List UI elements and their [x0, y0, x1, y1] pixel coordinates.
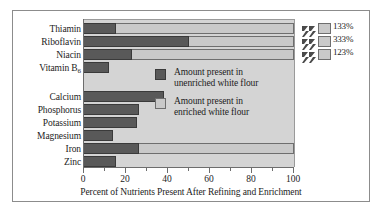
legend-label-line2: enriched white flour	[174, 107, 249, 118]
x-tick-major	[293, 168, 294, 173]
legend-label: Amount present inunenriched white flour	[174, 67, 258, 89]
x-tick-major	[125, 168, 126, 173]
bar-value-label: 123%	[333, 47, 353, 57]
x-axis-title: Percent of Nutrients Present After Refin…	[13, 187, 369, 197]
axis-break-zigzag-icon	[302, 36, 316, 47]
plot-top-border	[84, 19, 294, 20]
axis-break-zigzag-icon	[302, 23, 316, 34]
category-label-thiamin: Thiamin	[15, 24, 81, 34]
bar-value-label: 133%	[333, 21, 353, 31]
legend-label: Amount present inenriched white flour	[174, 96, 249, 118]
x-tick-minor	[188, 168, 189, 171]
legend-label-line2: unenriched white flour	[174, 78, 258, 89]
x-tick-minor	[104, 168, 105, 171]
category-label-zinc: Zinc	[15, 157, 81, 167]
bar-segment-enriched	[84, 23, 294, 34]
bar-segment-unenriched	[84, 23, 116, 34]
legend-swatch-enriched	[155, 98, 166, 109]
bar-overflow-cap	[318, 36, 331, 47]
category-label-calcium: Calcium	[15, 92, 81, 102]
bar-overflow-cap	[318, 49, 331, 60]
legend-swatch-unenriched	[155, 69, 166, 80]
category-label-riboflavin: Riboflavin	[15, 37, 81, 47]
x-tick-label: 20	[120, 174, 130, 184]
bar-overflow-cap	[318, 23, 331, 34]
category-axis-labels: ThiaminRiboflavinNiacinVitamin B6Calcium…	[13, 19, 81, 167]
x-tick-major	[83, 168, 84, 173]
bar-segment-unenriched	[84, 91, 164, 102]
bar-value-label: 333%	[333, 34, 353, 44]
chart-figure: ThiaminRiboflavinNiacinVitamin B6Calcium…	[12, 10, 370, 202]
legend-item: Amount present inenriched white flour	[155, 97, 295, 119]
x-tick-minor	[272, 168, 273, 171]
category-label-vitamin-b: Vitamin B6	[15, 63, 81, 73]
legend-label-line1: Amount present in	[174, 96, 249, 107]
bar-segment-unenriched	[84, 104, 139, 115]
bar-segment-unenriched	[84, 36, 189, 47]
x-tick-label: 40	[162, 174, 172, 184]
x-tick-minor	[230, 168, 231, 171]
category-label-niacin: Niacin	[15, 50, 81, 60]
x-tick-label: 100	[286, 174, 300, 184]
x-axis-tick-labels: 020406080100	[83, 174, 294, 187]
x-tick-major	[251, 168, 252, 173]
x-tick-label: 80	[246, 174, 256, 184]
category-label-magnesium: Magnesium	[15, 131, 81, 141]
bar-segment-unenriched	[84, 117, 137, 128]
category-label-iron: Iron	[15, 144, 81, 154]
legend-label-line1: Amount present in	[174, 67, 258, 78]
bar-segment-unenriched	[84, 49, 132, 60]
legend-item: Amount present inunenriched white flour	[155, 68, 295, 90]
x-tick-major	[167, 168, 168, 173]
bar-segment-unenriched	[84, 143, 139, 154]
x-tick-minor	[146, 168, 147, 171]
bar-segment-unenriched	[84, 62, 109, 73]
category-label-potassium: Potassium	[15, 118, 81, 128]
x-tick-major	[209, 168, 210, 173]
axis-break-zigzag-icon	[302, 49, 316, 60]
bar-segment-unenriched	[84, 130, 113, 141]
bar-segment-unenriched	[84, 156, 116, 167]
x-tick-label: 0	[81, 174, 86, 184]
category-label-phosphorus: Phosphorus	[15, 105, 81, 115]
x-tick-label: 60	[204, 174, 214, 184]
chart-legend: Amount present inunenriched white flourA…	[155, 68, 295, 126]
